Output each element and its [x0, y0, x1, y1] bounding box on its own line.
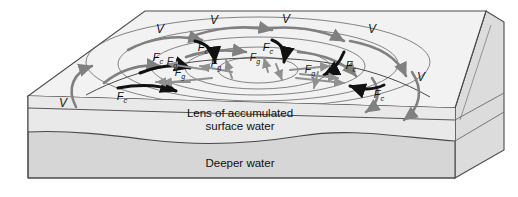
lens-caption-line1: Lens of accumulated [187, 107, 293, 119]
block-diagram-svg: V V V V V V Fc Fc Fc Fc Fc Fc Fg Fg [0, 0, 518, 197]
figure-canvas: V V V V V V Fc Fc Fc Fc Fc Fc Fg Fg [0, 0, 518, 197]
velocity-label: V [417, 70, 426, 84]
velocity-label: V [156, 22, 165, 36]
velocity-label: V [59, 96, 68, 110]
velocity-label: V [368, 22, 377, 36]
velocity-label: V [210, 13, 219, 27]
block-3d [28, 11, 504, 178]
deep-caption: Deeper water [205, 157, 274, 169]
velocity-label: V [282, 12, 291, 26]
lens-caption-line2: surface water [205, 120, 274, 132]
